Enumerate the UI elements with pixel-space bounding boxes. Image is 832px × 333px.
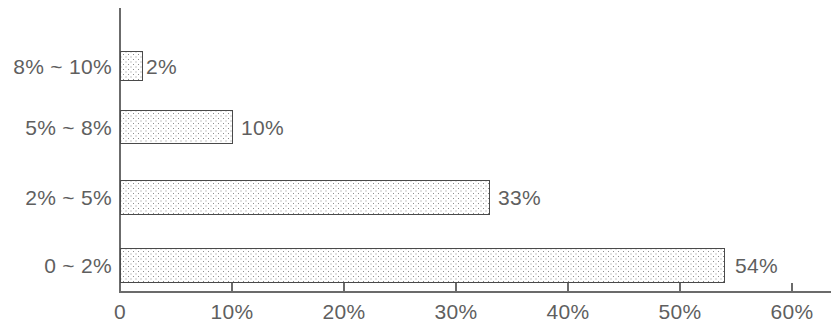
bar: [120, 110, 233, 144]
x-axis-tick-label: 0: [114, 300, 126, 324]
x-axis-tick-label: 20%: [323, 300, 366, 324]
bar-value-label: 2%: [146, 55, 177, 79]
bar: [120, 180, 490, 215]
x-axis-tick-label: 60%: [771, 300, 814, 324]
y-axis-category-label: 2% ~ 5%: [25, 186, 112, 210]
y-axis-category-label: 0 ~ 2%: [44, 254, 112, 278]
x-axis-tick: [343, 283, 345, 292]
y-axis-category-label: 5% ~ 8%: [25, 116, 112, 140]
y-axis-category-label: 8% ~ 10%: [13, 55, 112, 79]
x-axis-line: [119, 291, 831, 293]
x-axis-tick: [455, 283, 457, 292]
x-axis-tick-label: 40%: [547, 300, 590, 324]
bar-value-label: 54%: [735, 254, 778, 278]
x-axis-tick: [567, 283, 569, 292]
bar: [120, 51, 143, 81]
bar-value-label: 10%: [241, 116, 284, 140]
x-axis-tick-label: 30%: [435, 300, 478, 324]
x-axis-tick: [119, 283, 121, 292]
bar: [120, 248, 725, 283]
x-axis-tick-label: 50%: [659, 300, 702, 324]
x-axis-tick: [231, 283, 233, 292]
x-axis-tick: [679, 283, 681, 292]
bar-chart: 0 10% 20% 30% 40% 50% 60% 8% ~ 10% 5% ~ …: [0, 0, 832, 333]
bar-value-label: 33%: [498, 186, 541, 210]
x-axis-tick-label: 10%: [211, 300, 254, 324]
x-axis-tick: [791, 283, 793, 292]
